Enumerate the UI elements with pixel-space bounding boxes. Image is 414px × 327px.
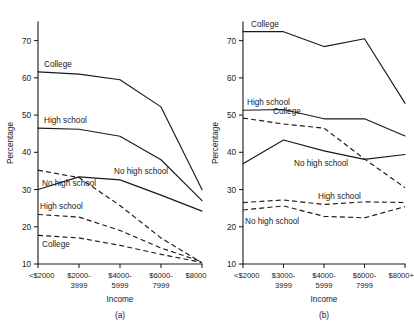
series-line-high-school-dashed — [38, 214, 202, 261]
y-tick-label: 40 — [22, 148, 32, 157]
series-group — [243, 32, 405, 218]
x-tick-label: 3999 — [71, 281, 88, 290]
x-tick-labels: <$2000$3000-3999$4000-5999$6000-7999$800… — [234, 271, 414, 290]
y-tick-label: 20 — [22, 223, 32, 232]
series-label-no-high-school: No high school — [114, 167, 168, 176]
x-tick-label: $4000- — [108, 271, 132, 280]
y-tick-label: 20 — [227, 223, 237, 232]
y-tick-label: 50 — [22, 111, 32, 120]
x-tick-label: $8000+ — [388, 271, 414, 280]
y-axis-title: Percentage — [6, 122, 15, 164]
panel-label: (a) — [115, 310, 125, 320]
axis-lines — [38, 22, 202, 264]
chart-panel-a: 10203040506070<$2000$2000-3999$4000-5999… — [0, 0, 207, 327]
axes: 10203040506070 — [227, 22, 405, 269]
series-label-high-school: High school — [318, 192, 361, 201]
series-label-high-school: High school — [44, 116, 87, 125]
y-tick-label: 30 — [227, 186, 237, 195]
y-tick-label: 10 — [22, 260, 32, 269]
panel-label: (b) — [319, 310, 329, 320]
y-tick-label: 30 — [22, 186, 32, 195]
x-axis-title: Income — [107, 295, 134, 304]
series-label-no-high-school: No high school — [42, 179, 96, 188]
series-label-no-high-school: No high school — [245, 217, 299, 226]
x-tick-label: <$2000 — [234, 271, 260, 280]
y-axis-title: Percentage — [211, 122, 220, 164]
series-labels: CollegeHigh schoolNo high schoolNo high … — [40, 60, 168, 249]
y-tick-label: 60 — [22, 74, 32, 83]
y-tick-label: 60 — [227, 74, 237, 83]
x-tick-label: 5999 — [112, 281, 129, 290]
x-tick-labels: <$2000$2000-3999$4000-5999$6000-7999$800… — [29, 271, 207, 290]
y-axis-ticks: 10203040506070 — [227, 37, 243, 269]
x-tick-label: 5999 — [316, 281, 333, 290]
x-tick-label: $6000- — [149, 271, 173, 280]
x-tick-label: $6000- — [353, 271, 377, 280]
series-labels: CollegeHigh schoolNo high schoolCollegeH… — [245, 20, 361, 226]
series-line-college — [243, 32, 405, 103]
x-tick-label: $4000- — [312, 271, 336, 280]
x-tick-label: $2000- — [67, 271, 91, 280]
y-tick-label: 10 — [227, 260, 237, 269]
y-tick-label: 50 — [227, 111, 237, 120]
series-label-college: College — [44, 60, 72, 69]
x-axis-title: Income — [311, 295, 338, 304]
y-tick-label: 40 — [227, 148, 237, 157]
chart-panel-b: 10203040506070<$2000$3000-3999$4000-5999… — [207, 0, 414, 327]
series-label-college: College — [273, 107, 301, 116]
figure-two-panel-line-charts: 10203040506070<$2000$2000-3999$4000-5999… — [0, 0, 414, 327]
series-label-college: College — [42, 240, 70, 249]
y-axis-ticks: 10203040506070 — [22, 37, 38, 269]
x-axis-ticks — [243, 264, 405, 268]
series-line-college-dashed — [243, 118, 405, 188]
y-tick-label: 70 — [22, 37, 32, 46]
x-tick-label: 7999 — [356, 281, 373, 290]
series-label-high-school: High school — [247, 98, 290, 107]
x-tick-label: 7999 — [153, 281, 170, 290]
series-label-no-high-school: No high school — [294, 159, 348, 168]
x-axis-ticks — [38, 264, 202, 268]
series-label-college: College — [251, 20, 279, 29]
x-tick-label: $8000+ — [185, 271, 207, 280]
x-tick-label: $3000- — [272, 271, 296, 280]
x-tick-label: <$2000 — [29, 271, 55, 280]
series-line-high-school — [243, 109, 405, 135]
chart-svg-b: 10203040506070<$2000$3000-3999$4000-5999… — [207, 0, 414, 327]
chart-svg-a: 10203040506070<$2000$2000-3999$4000-5999… — [0, 0, 207, 327]
axis-lines — [243, 22, 405, 264]
series-label-high-school: High school — [40, 202, 83, 211]
y-tick-label: 70 — [227, 37, 237, 46]
x-tick-label: 3999 — [275, 281, 292, 290]
